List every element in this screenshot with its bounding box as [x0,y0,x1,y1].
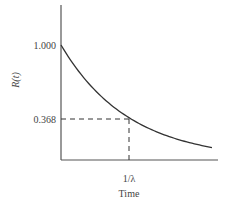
ytick-label-1000: 1.000 [34,40,57,51]
reliability-curve [61,45,212,148]
ytick-label-0368: 0.368 [34,114,57,125]
y-axis-title: R(t) [10,72,22,89]
xtick-label-inv-lambda: 1/λ [123,173,136,184]
x-axis-title: Time [119,188,140,199]
reliability-chart: 1.000 0.368 1/λ Time R(t) [0,0,228,206]
